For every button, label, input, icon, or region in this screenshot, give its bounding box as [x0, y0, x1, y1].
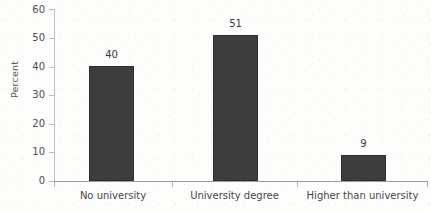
bar-no-university — [89, 66, 134, 181]
bar-higher-than-university — [341, 155, 386, 181]
bar-value-no-university: 40 — [89, 50, 134, 60]
x-tick-mark-2 — [297, 182, 298, 187]
x-tick-mark-end — [427, 182, 428, 187]
bar-value-higher-than-university: 9 — [341, 139, 386, 149]
y-axis-line — [54, 9, 55, 181]
y-tick-label-10: 10 — [0, 147, 45, 157]
x-axis-line — [54, 181, 428, 182]
bar-value-university-degree: 51 — [213, 19, 258, 29]
y-tick-label-0: 0 — [0, 176, 45, 186]
x-label-no-university: No university — [54, 191, 172, 201]
y-tick-label-50: 50 — [0, 33, 45, 43]
bar-chart-figure: Percent 60 50 40 30 20 10 0 40 51 9 No u… — [0, 0, 431, 213]
y-tick-label-20: 20 — [0, 119, 45, 129]
x-tick-mark-start — [54, 182, 55, 187]
y-tick-label-40: 40 — [0, 62, 45, 72]
bar-university-degree — [213, 35, 258, 181]
y-tick-label-30: 30 — [0, 90, 45, 100]
x-tick-mark-1 — [172, 182, 173, 187]
x-label-higher-than-university: Higher than university — [297, 191, 428, 201]
y-tick-label-60: 60 — [0, 5, 45, 15]
x-label-university-degree: University degree — [172, 191, 297, 201]
y-axis-title: Percent — [9, 50, 20, 110]
